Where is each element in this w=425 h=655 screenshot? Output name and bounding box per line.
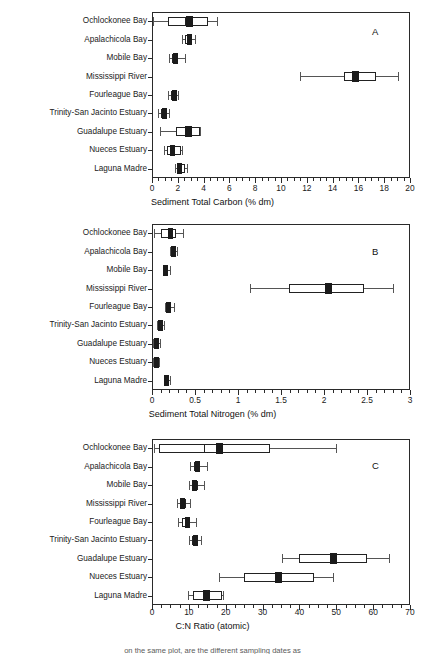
whisker-cap-low xyxy=(168,91,169,100)
whisker-cap-low xyxy=(169,54,170,63)
mean-marker xyxy=(168,228,173,239)
mean-marker xyxy=(158,320,163,331)
x-tick-minor xyxy=(333,390,334,393)
mean-marker xyxy=(163,265,168,276)
whisker-cap-high xyxy=(174,303,175,312)
boxplot-c-7 xyxy=(0,572,425,583)
x-tick-label-6: 60 xyxy=(357,607,389,617)
boxplot-a-3 xyxy=(0,71,425,82)
x-tick-minor xyxy=(307,390,308,393)
boxplot-c-6 xyxy=(0,553,425,564)
x-tick-minor xyxy=(294,178,295,181)
x-tick-minor xyxy=(392,605,393,608)
x-tick-minor xyxy=(313,178,314,181)
whisker-cap-high xyxy=(207,462,208,471)
whisker-cap-low xyxy=(154,229,155,238)
x-tick-minor xyxy=(223,178,224,181)
boxplot-a-8 xyxy=(0,163,425,174)
x-tick-minor xyxy=(275,178,276,181)
x-tick-minor xyxy=(404,178,405,181)
boxplot-b-2 xyxy=(0,265,425,276)
x-tick-minor xyxy=(262,178,263,181)
whisker-cap-high xyxy=(195,35,196,44)
x-tick-minor xyxy=(391,178,392,181)
x-tick-minor xyxy=(281,605,282,608)
mean-marker xyxy=(170,145,175,156)
x-tick-label-3: 1.5 xyxy=(265,395,297,405)
mean-marker xyxy=(275,572,282,583)
boxplot-a-5 xyxy=(0,108,425,119)
boxplot-b-7 xyxy=(0,357,425,368)
x-tick-minor xyxy=(221,390,222,393)
whisker-cap-low xyxy=(190,462,191,471)
mean-marker xyxy=(193,535,198,546)
x-tick-minor xyxy=(358,390,359,393)
mean-marker xyxy=(154,357,159,368)
x-tick-minor xyxy=(384,390,385,393)
x-tick-minor xyxy=(376,390,377,393)
x-tick-minor xyxy=(236,178,237,181)
boxplot-c-5 xyxy=(0,535,425,546)
x-tick-minor xyxy=(393,390,394,393)
mean-marker xyxy=(154,338,159,349)
whisker-cap-low xyxy=(282,554,283,563)
x-axis-title: Sediment Total Nitrogen (% dm) xyxy=(0,409,425,419)
x-tick-minor xyxy=(169,390,170,393)
mean-marker xyxy=(172,90,177,101)
x-tick-minor xyxy=(346,178,347,181)
whisker-cap-high xyxy=(164,321,165,330)
whisker-cap-low xyxy=(250,284,251,293)
whisker-cap-high xyxy=(190,499,191,508)
x-tick-minor xyxy=(204,390,205,393)
whisker-cap-high xyxy=(389,554,390,563)
x-tick-label-4: 40 xyxy=(283,607,315,617)
x-tick-minor xyxy=(290,390,291,393)
whisker-cap-high xyxy=(201,536,202,545)
x-tick-minor xyxy=(300,178,301,181)
boxplot-b-8 xyxy=(0,375,425,386)
x-tick-minor xyxy=(315,390,316,393)
whisker-cap-low xyxy=(300,72,301,81)
whisker-cap-high xyxy=(170,266,171,275)
x-tick-minor xyxy=(268,178,269,181)
x-tick-label-7: 70 xyxy=(394,607,425,617)
whisker-cap-high xyxy=(217,17,218,26)
x-tick-label-4: 2 xyxy=(308,395,340,405)
whisker-cap-high xyxy=(200,127,201,136)
whisker-cap-low xyxy=(160,127,161,136)
x-tick-minor xyxy=(184,178,185,181)
whisker-cap-low xyxy=(164,146,165,155)
x-tick-minor xyxy=(272,390,273,393)
mean-marker xyxy=(164,375,169,386)
whisker-cap-low xyxy=(189,536,190,545)
whisker-cap-high xyxy=(178,91,179,100)
whisker-cap-high xyxy=(204,481,205,490)
whisker-cap-high xyxy=(183,229,184,238)
boxplot-a-0 xyxy=(0,16,425,27)
boxplot-a-6 xyxy=(0,126,425,137)
mean-marker xyxy=(187,34,192,45)
mean-marker xyxy=(186,16,193,27)
boxplot-b-3 xyxy=(0,283,425,294)
whisker-cap-high xyxy=(182,146,183,155)
box-iqr xyxy=(159,444,270,453)
figure-caption-fragment: on the same plot, are the different samp… xyxy=(0,646,425,654)
boxplot-c-0 xyxy=(0,443,425,454)
x-tick-label-5: 2.5 xyxy=(351,395,383,405)
boxplot-a-1 xyxy=(0,34,425,45)
x-tick-minor xyxy=(365,178,366,181)
whisker-cap-high xyxy=(223,591,224,600)
x-tick-minor xyxy=(165,178,166,181)
mean-marker xyxy=(177,163,182,174)
median-line xyxy=(204,444,205,453)
whisker-cap-low xyxy=(153,17,154,26)
x-tick-minor xyxy=(318,605,319,608)
x-tick-minor xyxy=(244,605,245,608)
x-tick-minor xyxy=(401,390,402,393)
whisker-cap-high xyxy=(196,518,197,527)
mean-marker xyxy=(185,126,192,137)
x-tick-label-2: 20 xyxy=(210,607,242,617)
mean-marker xyxy=(173,53,178,64)
x-tick-minor xyxy=(207,605,208,608)
whisker-cap-high xyxy=(398,72,399,81)
